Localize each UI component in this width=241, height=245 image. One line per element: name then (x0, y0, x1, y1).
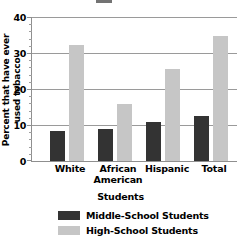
bar-total-middle-school[interactable] (194, 116, 209, 161)
y-tick-label-10: 10 (6, 121, 26, 131)
plot-area (31, 17, 237, 162)
bar-hispanic-middle-school[interactable] (146, 122, 161, 161)
bar-group-white (50, 17, 96, 161)
bar-white-middle-school[interactable] (50, 131, 65, 161)
legend-item-high-school[interactable]: High-School Students (0, 223, 241, 238)
bar-group-total (194, 17, 240, 161)
bar-white-high-school[interactable] (69, 45, 84, 161)
legend-label-high-school: High-School Students (86, 225, 198, 236)
legend-label-middle-school: Middle-School Students (86, 210, 209, 221)
bar-total-high-school[interactable] (213, 36, 228, 161)
bar-chart-figure: Percent that have ever used tobacco 40 3… (0, 0, 241, 245)
bar-african-american-middle-school[interactable] (98, 129, 113, 161)
x-axis-tick-labels: White African American Hispanic Total (31, 163, 236, 189)
y-tick-label-20: 20 (6, 85, 26, 95)
bar-hispanic-high-school[interactable] (165, 69, 180, 161)
legend-swatch-middle-school (58, 211, 80, 220)
x-axis-label: Students (0, 191, 241, 202)
y-tick-label-0: 0 (6, 157, 26, 167)
bar-group-african-american (98, 17, 144, 161)
chart-legend: Middle-School Students High-School Stude… (0, 208, 241, 238)
legend-item-middle-school[interactable]: Middle-School Students (0, 208, 241, 223)
cropped-title-remnant (96, 0, 112, 3)
y-tick-label-40: 40 (6, 13, 26, 23)
bar-series-container (32, 17, 237, 161)
x-tick-label-total-line-1: Total (184, 163, 241, 174)
x-tick-label-african-american-line-2: American (82, 174, 154, 185)
bar-group-hispanic (146, 17, 192, 161)
bar-african-american-high-school[interactable] (117, 104, 132, 161)
y-tick-label-30: 30 (6, 49, 26, 59)
legend-swatch-high-school (58, 226, 80, 235)
x-tick-label-total: Total (184, 163, 241, 174)
